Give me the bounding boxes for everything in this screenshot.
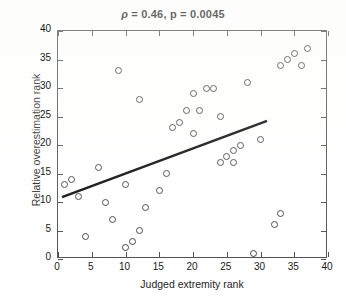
- x-axis-tick: [328, 31, 329, 36]
- data-point: [217, 113, 224, 120]
- y-axis-tick-label: 30: [21, 80, 51, 91]
- y-axis-tick: [321, 31, 326, 32]
- x-axis-tick-label: 40: [312, 261, 342, 272]
- data-point: [304, 45, 311, 52]
- y-axis-tick-label: 10: [21, 194, 51, 205]
- data-point: [122, 244, 129, 251]
- data-point: [291, 50, 298, 57]
- y-axis-tick-label: 20: [21, 137, 51, 148]
- data-point: [183, 107, 190, 114]
- title-rho-equals: =: [128, 8, 141, 20]
- data-point: [163, 170, 170, 177]
- y-axis-tick: [58, 88, 63, 89]
- data-point: [136, 96, 143, 103]
- y-axis-tick: [58, 231, 63, 232]
- data-points-layer: [58, 31, 326, 257]
- y-axis-tick-label: 25: [21, 109, 51, 120]
- data-point: [271, 221, 278, 228]
- x-axis-tick: [159, 252, 160, 257]
- data-point: [68, 176, 75, 183]
- y-axis-tick: [58, 259, 63, 260]
- title-separator: , p =: [163, 8, 190, 20]
- x-axis-tick: [126, 31, 127, 36]
- data-point: [244, 79, 251, 86]
- rho-symbol: ρ: [121, 8, 128, 20]
- data-point: [223, 153, 230, 160]
- y-axis-tick: [321, 231, 326, 232]
- x-axis-tick-label: 10: [110, 261, 140, 272]
- x-axis-tick-label: 5: [76, 261, 106, 272]
- plot-area: [57, 30, 327, 258]
- y-axis-tick: [321, 117, 326, 118]
- data-point: [169, 124, 176, 131]
- y-axis-tick: [321, 60, 326, 61]
- data-point: [75, 193, 82, 200]
- data-point: [230, 147, 237, 154]
- y-axis-tick: [58, 31, 63, 32]
- y-axis-tick-label: 40: [21, 23, 51, 34]
- x-axis-tick-label: 20: [177, 261, 207, 272]
- x-axis-tick: [126, 252, 127, 257]
- x-axis-tick-label: 35: [278, 261, 308, 272]
- y-axis-tick-label: 5: [21, 223, 51, 234]
- y-axis-tick-label: 15: [21, 166, 51, 177]
- y-axis-tick: [58, 60, 63, 61]
- data-point: [210, 85, 217, 92]
- x-axis-tick: [294, 252, 295, 257]
- x-axis-tick: [261, 252, 262, 257]
- data-point: [136, 227, 143, 234]
- data-point: [196, 107, 203, 114]
- x-axis-tick-label: 15: [143, 261, 173, 272]
- x-axis-tick: [92, 31, 93, 36]
- data-point: [61, 181, 68, 188]
- data-point: [230, 159, 237, 166]
- data-point: [156, 187, 163, 194]
- data-point: [298, 62, 305, 69]
- y-axis-tick: [58, 174, 63, 175]
- data-point: [142, 204, 149, 211]
- x-axis-tick: [159, 31, 160, 36]
- x-axis-title: Judged extremity rank: [57, 278, 327, 290]
- x-axis-tick-label: 0: [42, 261, 72, 272]
- data-point: [190, 130, 197, 137]
- y-axis-tick: [58, 202, 63, 203]
- y-axis-tick: [321, 174, 326, 175]
- data-point: [190, 90, 197, 97]
- p-value: 0.0045: [190, 8, 225, 20]
- x-axis-tick: [193, 252, 194, 257]
- scatter-plot-figure: ρ = 0.46, p = 0.0045 Judged extremity ra…: [0, 0, 346, 300]
- x-axis-tick: [328, 252, 329, 257]
- data-point: [237, 142, 244, 149]
- x-axis-tick: [227, 252, 228, 257]
- y-axis-tick-label: 0: [21, 251, 51, 262]
- data-point: [284, 56, 291, 63]
- y-axis-tick: [58, 145, 63, 146]
- data-point: [217, 159, 224, 166]
- x-axis-tick-label: 25: [211, 261, 241, 272]
- data-point: [277, 62, 284, 69]
- data-point: [129, 238, 136, 245]
- y-axis-tick: [321, 202, 326, 203]
- y-axis-tick: [58, 117, 63, 118]
- x-axis-tick: [58, 252, 59, 257]
- data-point: [109, 216, 116, 223]
- y-axis-tick: [321, 259, 326, 260]
- data-point: [122, 181, 129, 188]
- x-axis-tick-label: 30: [245, 261, 275, 272]
- data-point: [176, 119, 183, 126]
- data-point: [115, 67, 122, 74]
- data-point: [102, 199, 109, 206]
- y-axis-tick: [321, 88, 326, 89]
- data-point: [203, 85, 210, 92]
- x-axis-tick: [261, 31, 262, 36]
- data-point: [95, 164, 102, 171]
- x-axis-tick: [193, 31, 194, 36]
- y-axis-tick-label: 35: [21, 52, 51, 63]
- chart-title: ρ = 0.46, p = 0.0045: [0, 8, 346, 20]
- rho-value: 0.46: [141, 8, 163, 20]
- data-point: [82, 233, 89, 240]
- x-axis-tick: [294, 31, 295, 36]
- data-point: [250, 250, 257, 257]
- x-axis-tick: [92, 252, 93, 257]
- x-axis-tick: [227, 31, 228, 36]
